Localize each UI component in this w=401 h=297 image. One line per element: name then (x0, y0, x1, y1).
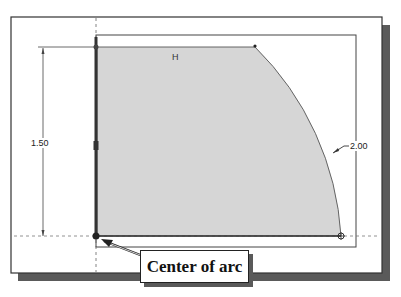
arc-center-point[interactable] (93, 233, 100, 240)
vertical-dimension-value[interactable]: 1.50 (30, 138, 50, 148)
horizontal-relation-label: H (172, 52, 179, 62)
vertex-top-left[interactable] (94, 45, 99, 50)
radius-dimension-value[interactable]: 2.00 (349, 141, 369, 151)
vertex-arc-start[interactable] (253, 44, 256, 47)
callout-label: Center of arc (147, 257, 243, 277)
midpoint-marker (94, 141, 99, 150)
center-of-arc-callout: Center of arc (140, 250, 249, 283)
